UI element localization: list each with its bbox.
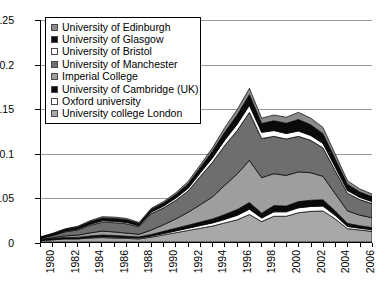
x-tick-label: 1992 — [193, 250, 204, 273]
x-tick-label: 2002 — [316, 250, 327, 273]
legend-swatch-icon — [51, 24, 58, 31]
legend-swatch-icon — [51, 86, 58, 93]
x-tick-label: 1998 — [266, 250, 277, 273]
x-tick-label: 1990 — [168, 250, 179, 273]
legend-item[interactable]: University of Edinburgh — [51, 21, 196, 33]
x-tick-mark — [298, 243, 299, 247]
legend-item[interactable]: Oxford university — [51, 95, 196, 107]
legend-item-label: University college London — [62, 108, 182, 119]
x-tick-mark — [188, 243, 189, 247]
legend-item-label: University of Glasgow — [62, 34, 164, 45]
x-tick-label: 1994 — [217, 250, 228, 273]
x-tick-label: 2004 — [340, 250, 351, 273]
x-tick-mark — [126, 243, 127, 247]
x-tick-mark — [237, 243, 238, 247]
x-tick-mark — [249, 243, 250, 247]
x-tick-mark — [323, 243, 324, 247]
legend-item[interactable]: University of Manchester — [51, 58, 196, 70]
x-tick-mark — [286, 243, 287, 247]
legend-swatch-icon — [51, 61, 58, 68]
legend-item-label: University of Manchester — [62, 59, 178, 70]
legend-item[interactable]: Imperial College — [51, 71, 196, 83]
y-tick-label: 0.15 — [0, 104, 14, 114]
x-tick-label: 2000 — [291, 250, 302, 273]
legend-item[interactable]: University of Bristol — [51, 46, 196, 58]
chart-legend: University of EdinburghUniversity of Gla… — [45, 17, 201, 124]
x-tick-mark — [311, 243, 312, 247]
legend-item-label: University of Bristol — [62, 46, 152, 57]
legend-item[interactable]: University of Glasgow — [51, 33, 196, 45]
x-tick-mark — [65, 243, 66, 247]
legend-swatch-icon — [51, 48, 58, 55]
x-tick-mark — [101, 243, 102, 247]
x-tick-label: 1986 — [119, 250, 130, 273]
x-tick-label: 2006 — [365, 250, 376, 273]
legend-item-label: Imperial College — [62, 71, 138, 82]
x-tick-mark — [52, 243, 53, 247]
legend-item[interactable]: University college London — [51, 108, 196, 120]
y-tick-label: 0.25 — [0, 15, 14, 25]
legend-swatch-icon — [51, 98, 58, 105]
legend-swatch-icon — [51, 73, 58, 80]
y-tick-label: 0 — [8, 238, 14, 248]
x-tick-mark — [163, 243, 164, 247]
x-tick-mark — [274, 243, 275, 247]
x-tick-label: 1982 — [70, 250, 81, 273]
x-tick-mark — [151, 243, 152, 247]
x-tick-label: 1988 — [143, 250, 154, 273]
x-tick-mark — [77, 243, 78, 247]
x-tick-mark — [40, 243, 41, 247]
x-tick-mark — [212, 243, 213, 247]
x-tick-mark — [261, 243, 262, 247]
y-tick-label: 0.05 — [0, 193, 14, 203]
x-tick-label: 1984 — [94, 250, 105, 273]
x-tick-mark — [138, 243, 139, 247]
legend-item-label: Oxford university — [62, 96, 141, 107]
x-tick-mark — [200, 243, 201, 247]
y-tick-label: 0.2 — [0, 60, 14, 70]
legend-item[interactable]: University of Cambridge (UK) — [51, 83, 196, 95]
x-tick-mark — [347, 243, 348, 247]
stacked-area-chart: 00.050.10.150.20.25 19801982198419861988… — [0, 0, 388, 295]
x-tick-mark — [224, 243, 225, 247]
x-tick-mark — [114, 243, 115, 247]
x-tick-mark — [372, 243, 373, 247]
x-tick-mark — [360, 243, 361, 247]
x-tick-mark — [335, 243, 336, 247]
legend-swatch-icon — [51, 110, 58, 117]
legend-swatch-icon — [51, 36, 58, 43]
y-tick-label: 0.1 — [0, 149, 14, 159]
x-tick-label: 1996 — [242, 250, 253, 273]
legend-item-label: University of Cambridge (UK) — [62, 84, 199, 95]
x-tick-label: 1980 — [45, 250, 56, 273]
legend-item-label: University of Edinburgh — [62, 22, 171, 33]
x-tick-mark — [89, 243, 90, 247]
x-tick-mark — [175, 243, 176, 247]
